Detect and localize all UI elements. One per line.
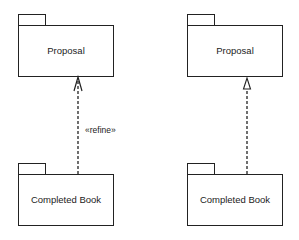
- package-label-proposal-left: Proposal: [18, 45, 114, 56]
- package-label-completed-book-left: Completed Book: [18, 194, 114, 205]
- refine-stereotype-label: «refine»: [85, 125, 116, 135]
- package-label-completed-book-right: Completed Book: [187, 194, 283, 205]
- package-label-proposal-right: Proposal: [187, 45, 283, 56]
- realization-arrow: [244, 78, 251, 174]
- refine-dependency-arrow: [74, 77, 82, 174]
